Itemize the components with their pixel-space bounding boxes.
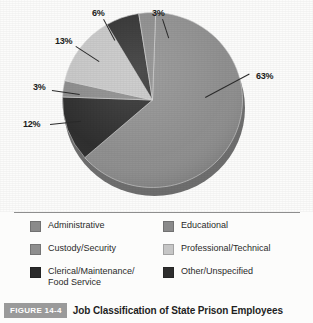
pie-chart: 6% 3% 13% 3% 12% 63%: [0, 0, 313, 212]
legend-item-educational: Educational: [163, 220, 308, 232]
pie-graphic: [62, 12, 247, 197]
pie-slices: [62, 12, 243, 188]
legend-item-professional-technical: Professional/Technical: [163, 243, 308, 255]
legend-item-clerical: Clerical/Maintenance/ Food Service: [30, 266, 165, 288]
legend-label: Educational: [181, 220, 228, 231]
legend-item-other-unspecified: Other/Unspecified: [163, 266, 308, 278]
figure-container: 6% 3% 13% 3% 12% 63% Administrative Cust…: [0, 0, 313, 323]
legend-swatch-icon: [30, 244, 41, 255]
figure-caption: FIGURE 14-4 Job Classification of State …: [0, 300, 313, 320]
legend-swatch-icon: [163, 244, 174, 255]
figure-caption-text: Job Classification of State Prison Emplo…: [73, 305, 283, 316]
legend-swatch-icon: [30, 267, 41, 278]
legend-item-custody-security: Custody/Security: [30, 243, 165, 255]
pct-label: 6%: [92, 8, 105, 18]
legend-swatch-icon: [30, 221, 41, 232]
legend-label: Professional/Technical: [181, 243, 271, 254]
legend-label: Custody/Security: [48, 243, 116, 254]
legend-swatch-icon: [163, 267, 174, 278]
legend-divider: [14, 212, 300, 213]
pct-label: 12%: [23, 119, 40, 129]
legend-label: Administrative: [48, 220, 105, 231]
pct-label: 63%: [256, 71, 273, 81]
legend-label: Other/Unspecified: [181, 266, 253, 277]
legend-column-left: Administrative Custody/Security Clerical…: [30, 220, 165, 299]
pct-label: 3%: [152, 8, 165, 18]
pct-label: 13%: [55, 36, 72, 46]
figure-number-badge: FIGURE 14-4: [4, 303, 67, 318]
legend-column-right: Educational Professional/Technical Other…: [163, 220, 308, 289]
pct-label: 3%: [33, 82, 46, 92]
legend-label: Clerical/Maintenance/ Food Service: [48, 266, 135, 288]
legend-item-administrative: Administrative: [30, 220, 165, 232]
legend-swatch-icon: [163, 221, 174, 232]
legend: Administrative Custody/Security Clerical…: [0, 220, 313, 292]
